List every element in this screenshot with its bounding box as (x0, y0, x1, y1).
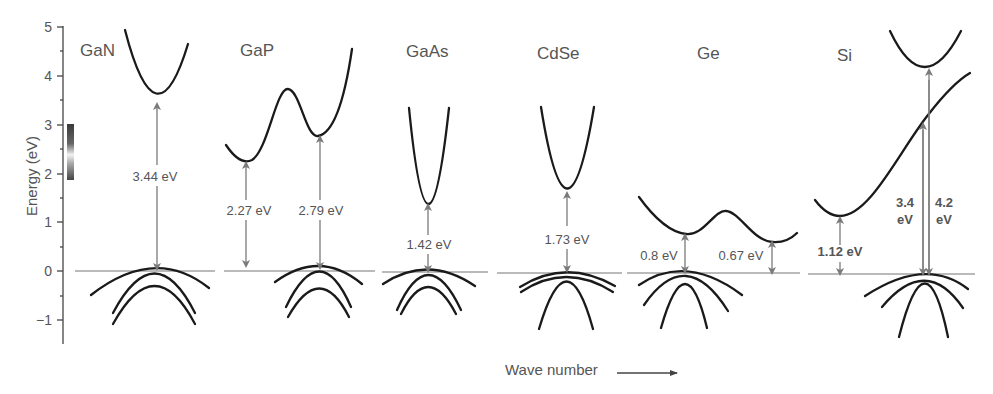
valence-band-split (661, 284, 707, 328)
conduction-band (541, 107, 594, 189)
panel-gaas: GaAs 1.42 eV (383, 42, 475, 314)
y-axis: 5 4 3 2 1 0 −1 Energy (eV) (23, 19, 63, 344)
panel-gap: GaP 2.27 eV 2.79 eV (226, 41, 362, 317)
y-tick-label: −1 (36, 312, 52, 328)
panel-gan: GaN 3.44 eV (80, 30, 209, 324)
conduction-band (639, 197, 797, 242)
panel-title-gaas: GaAs (406, 42, 449, 61)
gap-label-direct-2-value: 4.2 (935, 195, 953, 210)
gap-label-direct: 0.8 eV (640, 248, 678, 263)
valence-band-split (539, 282, 593, 330)
panel-cdse: CdSe 1.73 eV (520, 44, 615, 329)
valence-band-heavy (865, 274, 968, 296)
panel-title-gan: GaN (80, 41, 115, 60)
gap-label-direct-1-value: 3.4 (896, 195, 915, 210)
gap-label-indirect: 1.12 eV (818, 244, 863, 259)
y-axis-title: Energy (eV) (23, 136, 40, 216)
panel-title-cdse: CdSe (537, 44, 580, 63)
spectrum-colorbar (67, 124, 74, 180)
y-tick-label: 5 (44, 19, 52, 35)
valence-band-split (288, 289, 349, 318)
valence-band-split (401, 287, 456, 314)
y-tick-label: 3 (44, 117, 52, 133)
upper-conduction-band (890, 31, 961, 67)
valence-band-split (899, 284, 948, 338)
panel-ge: Ge 0.8 eV 0.67 eV (639, 44, 797, 328)
gap-label-indirect: 0.67 eV (719, 248, 764, 263)
valence-band-light (113, 274, 195, 314)
panel-si: Si 1.12 eV 3.4 eV 4.2 eV (815, 31, 970, 337)
x-axis: Wave number (505, 361, 677, 378)
y-tick-label: 2 (44, 166, 52, 182)
gap-label-direct-2-unit: eV (936, 212, 952, 227)
gap-label: 1.42 eV (407, 237, 452, 252)
panel-title-ge: Ge (697, 44, 720, 63)
gap-label: 3.44 eV (133, 169, 178, 184)
gap-label: 1.73 eV (545, 232, 590, 247)
band-structure-chart: 5 4 3 2 1 0 −1 Energy (eV) GaN 3.44 eV G… (0, 0, 993, 394)
valence-band-heavy (275, 266, 362, 284)
y-tick-label: 4 (44, 68, 52, 84)
valence-band-light (644, 276, 728, 311)
conduction-band (409, 108, 449, 204)
gap-label-indirect: 2.27 eV (227, 203, 272, 218)
panel-title-gap: GaP (240, 41, 274, 60)
gap-label-direct: 2.79 eV (299, 203, 344, 218)
y-tick-label: 0 (44, 263, 52, 279)
conduction-band (226, 49, 352, 161)
panel-title-si: Si (837, 46, 852, 65)
y-tick-label: 1 (44, 214, 52, 230)
x-axis-title: Wave number (505, 361, 598, 378)
conduction-band (125, 30, 188, 94)
gap-label-direct-1-unit: eV (897, 212, 913, 227)
valence-band-heavy (91, 268, 209, 295)
